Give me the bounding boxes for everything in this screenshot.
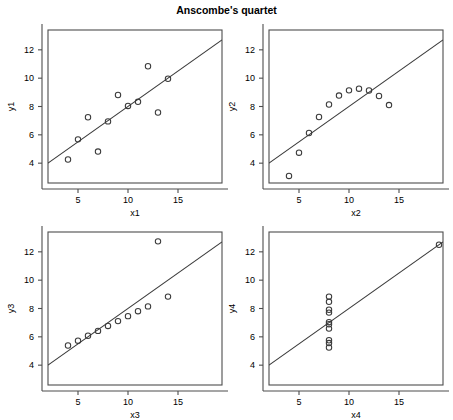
- y-tick-label: 4: [29, 360, 34, 370]
- y-tick-label: 12: [24, 45, 34, 55]
- y-axis-title: y3: [6, 304, 16, 314]
- x-tick-label: 10: [344, 195, 354, 205]
- y-tick-label: 8: [29, 102, 34, 112]
- y-tick-label: 4: [29, 158, 34, 168]
- y-tick-label: 4: [250, 158, 255, 168]
- y-tick-label: 8: [250, 102, 255, 112]
- x-axis-title: x1: [130, 208, 140, 218]
- x-tick-label: 5: [75, 195, 80, 205]
- y-tick-label: 10: [245, 275, 255, 285]
- y-tick-label: 12: [24, 247, 34, 257]
- y-tick-label: 12: [245, 45, 255, 55]
- x-tick-label: 5: [75, 397, 80, 407]
- x-tick-label: 10: [344, 397, 354, 407]
- y-axis-title: y2: [227, 102, 237, 112]
- x-axis-title: x3: [130, 410, 140, 420]
- y-tick-label: 8: [29, 304, 34, 314]
- x-tick-label: 10: [123, 397, 133, 407]
- x-tick-label: 15: [173, 195, 183, 205]
- y-tick-label: 4: [250, 360, 255, 370]
- figure-background: [0, 0, 453, 420]
- x-tick-label: 5: [296, 397, 301, 407]
- x-tick-label: 15: [394, 195, 404, 205]
- x-axis-title: x2: [351, 208, 361, 218]
- y-tick-label: 10: [24, 73, 34, 83]
- y-tick-label: 6: [250, 332, 255, 342]
- y-tick-label: 12: [245, 247, 255, 257]
- y-axis-title: y4: [227, 304, 237, 314]
- y-tick-label: 6: [29, 130, 34, 140]
- page-title: Anscombe's quartet: [176, 4, 277, 16]
- x-tick-label: 15: [173, 397, 183, 407]
- y-tick-label: 10: [24, 275, 34, 285]
- x-tick-label: 10: [123, 195, 133, 205]
- y-tick-label: 10: [245, 73, 255, 83]
- y-tick-label: 6: [250, 130, 255, 140]
- y-tick-label: 6: [29, 332, 34, 342]
- x-axis-title: x4: [351, 410, 361, 420]
- anscombe-quartet-figure: Anscombe's quartet 51015x14681012y151015…: [0, 0, 453, 420]
- y-tick-label: 8: [250, 304, 255, 314]
- x-tick-label: 15: [394, 397, 404, 407]
- x-tick-label: 5: [296, 195, 301, 205]
- y-axis-title: y1: [6, 102, 16, 112]
